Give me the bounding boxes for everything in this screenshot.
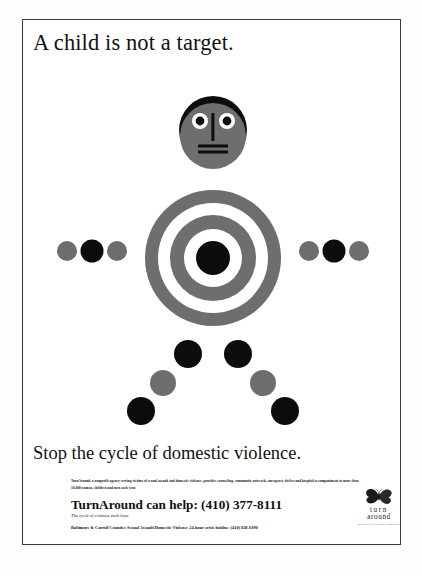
right-arm-dot-middle: [323, 240, 346, 263]
left-arm-dot-outer: [57, 241, 77, 261]
left-arm-dot-inner: [107, 241, 127, 261]
logo-word-around: around: [353, 513, 405, 521]
mouth-lower-bar: [198, 151, 228, 154]
crisis-hotline-line: Baltimore & Carroll Counties Sexual Assa…: [71, 525, 258, 530]
target-ring-3: [170, 215, 256, 301]
helpline-tagline: The cycle of violence ends here.: [71, 513, 130, 518]
left-leg-dot-middle: [150, 370, 176, 396]
left-leg-dot-upper: [174, 340, 202, 368]
left-arm-dot-middle: [81, 240, 104, 263]
right-arm-dot-inner: [299, 241, 319, 261]
figure-left-leg: [127, 340, 202, 425]
target-bullseye: [196, 241, 230, 275]
target-ring-2: [158, 203, 268, 313]
nose-line: [211, 113, 214, 141]
mouth-upper-bar: [198, 145, 228, 148]
head-face: [180, 103, 246, 169]
target-child-illustration: [23, 20, 402, 546]
organization-description: TurnAround, a nonprofit agency serving v…: [71, 478, 359, 491]
target-ring-1: [145, 190, 281, 326]
helpline-phone: TurnAround can help: (410) 377-8111: [71, 497, 282, 513]
figure-head: [179, 96, 247, 169]
right-leg-dot-lower: [271, 397, 299, 425]
butterfly-icon: [364, 488, 394, 505]
target-ring-4: [184, 229, 242, 287]
right-leg-dot-middle: [250, 370, 276, 396]
right-arm-dot-outer: [349, 241, 369, 261]
figure-right-leg: [224, 340, 299, 425]
head-hair: [179, 96, 247, 164]
poster-frame: A child is not a target.: [22, 19, 401, 545]
right-eye-white: [219, 113, 235, 129]
right-eye-pupil: [223, 117, 232, 126]
figure-right-arm: [299, 240, 369, 263]
figure-body-target: [145, 190, 281, 326]
figure-left-arm: [57, 240, 127, 263]
poster-subheading: Stop the cycle of domestic violence.: [33, 443, 301, 464]
left-leg-dot-lower: [127, 397, 155, 425]
left-eye-pupil: [196, 117, 205, 126]
logo-tagline: the cycle of violence ends here: [353, 522, 405, 526]
poster-canvas: A child is not a target.: [0, 0, 422, 577]
right-leg-dot-upper: [224, 340, 252, 368]
left-eye-white: [192, 113, 208, 129]
page-title: A child is not a target.: [33, 30, 234, 56]
turnaround-logo: turn around the cycle of violence ends h…: [353, 488, 405, 534]
